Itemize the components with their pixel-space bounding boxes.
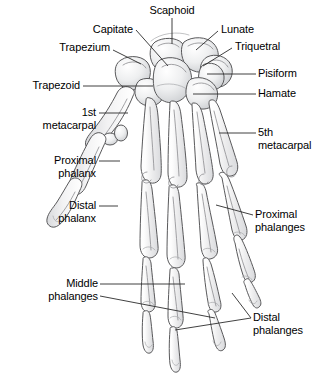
bone-metacarpal-3	[168, 101, 187, 187]
label-pisiform: Pisiform	[258, 67, 310, 80]
label-fifth-metacarpal: 5thmetacarpal	[258, 126, 320, 151]
label-first-metacarpal-line-2: metacarpal	[22, 119, 96, 132]
label-proximal-phalanx-line-1: Proximal	[22, 154, 96, 167]
label-proximal-phalanx-line-2: phalanx	[22, 167, 96, 180]
label-distal-phalanx-line-1: Distal	[22, 199, 96, 212]
bone-middle-phalanx-5	[234, 235, 255, 283]
label-first-metacarpal: 1stmetacarpal	[22, 106, 96, 131]
bone-proximal-phalanx-5	[219, 172, 247, 240]
label-distal-phalanx: Distalphalanx	[22, 199, 96, 224]
label-middle-phalanges-line-1: Middle	[18, 277, 98, 290]
label-distal-phalanges: Distalphalanges	[253, 311, 315, 336]
leader-line-middle-phalanges-b	[100, 296, 215, 318]
leader-line-distal-phalanges-b	[232, 293, 251, 318]
label-trapezoid: Trapezoid	[18, 79, 80, 92]
bone-metacarpal-2	[141, 98, 161, 184]
bone-middle-phalanx-4	[203, 258, 221, 312]
label-middle-phalanges: Middlephalanges	[18, 277, 98, 302]
label-trapezium-line-1: Trapezium	[46, 41, 110, 54]
label-capitate: Capitate	[73, 23, 133, 36]
bone-metacarpal-5	[209, 100, 238, 176]
label-middle-phalanges-line-2: phalanges	[18, 290, 98, 303]
label-proximal-phalanges-line-2: phalanges	[255, 221, 321, 234]
label-triquetral: Triquetral	[235, 40, 295, 53]
label-pisiform-line-1: Pisiform	[258, 67, 310, 80]
label-trapezoid-line-1: Trapezoid	[18, 79, 80, 92]
hand-skeleton-figure: .bone { fill:url(#boneGrad); stroke:#595…	[0, 0, 323, 392]
bone-metacarpal-4	[192, 103, 213, 184]
label-hamate: Hamate	[258, 87, 306, 100]
label-trapezium: Trapezium	[46, 41, 110, 54]
bone-sesamoid-2	[115, 125, 128, 141]
metacarpal-group	[85, 87, 237, 188]
bone-distal-phalanx-4	[208, 309, 226, 350]
label-proximal-phalanges: Proximalphalanges	[255, 208, 321, 233]
label-first-metacarpal-line-1: 1st	[22, 106, 96, 119]
label-fifth-metacarpal-line-1: 5th	[258, 126, 320, 139]
label-hamate-line-1: Hamate	[258, 87, 306, 100]
label-distal-phalanges-line-1: Distal	[253, 311, 315, 324]
label-proximal-phalanx: Proximalphalanx	[22, 154, 96, 179]
label-capitate-line-1: Capitate	[73, 23, 133, 36]
label-scaphoid-line-1: Scaphoid	[143, 4, 201, 17]
label-fifth-metacarpal-line-2: metacarpal	[258, 139, 320, 152]
label-distal-phalanges-line-2: phalanges	[253, 324, 315, 337]
bone-proximal-phalanx-4	[196, 183, 217, 259]
label-triquetral-line-1: Triquetral	[235, 40, 295, 53]
bone-proximal-phalanx-3	[167, 185, 185, 268]
label-scaphoid: Scaphoid	[143, 4, 201, 17]
label-lunate-line-1: Lunate	[221, 23, 275, 36]
label-distal-phalanx-line-2: phalanx	[22, 212, 96, 225]
bone-proximal-phalanx-2	[140, 180, 158, 258]
label-lunate: Lunate	[221, 23, 275, 36]
label-proximal-phalanges-line-1: Proximal	[255, 208, 321, 221]
